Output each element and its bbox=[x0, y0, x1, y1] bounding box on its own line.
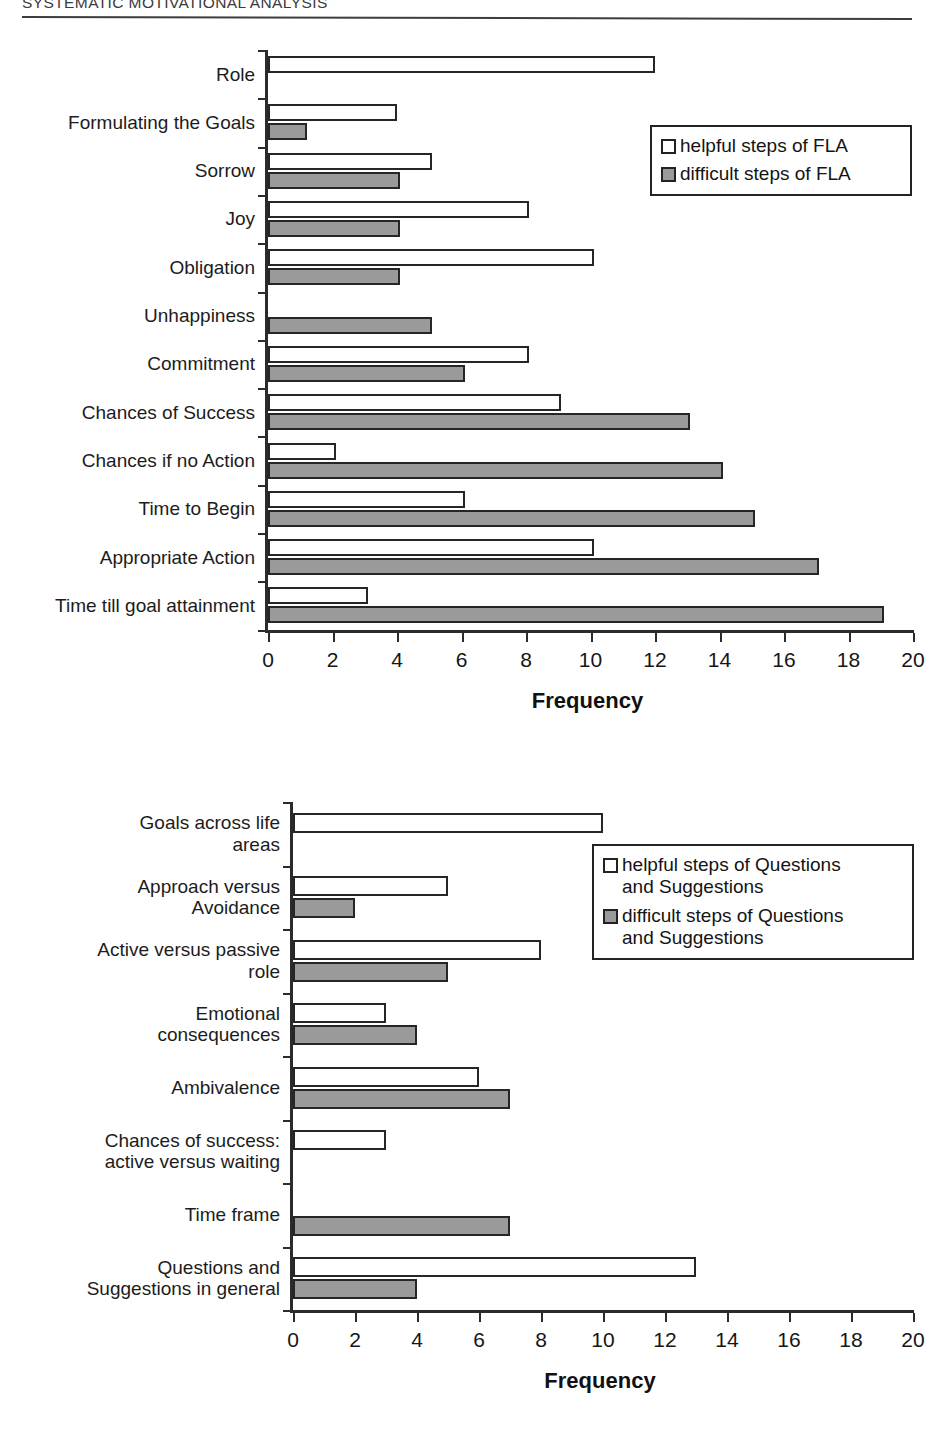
x-axis-tick-label: 18 bbox=[821, 1328, 881, 1352]
x-axis-tick bbox=[355, 1313, 357, 1322]
x-axis-tick-label: 10 bbox=[561, 648, 621, 672]
x-axis-tick-label: 18 bbox=[819, 648, 879, 672]
bar-helpful bbox=[268, 394, 561, 411]
y-axis-tick bbox=[258, 50, 267, 52]
legend-label: difficult steps of FLA bbox=[680, 163, 851, 185]
bar-helpful bbox=[293, 876, 448, 896]
bar-difficult bbox=[268, 558, 819, 575]
category-label: Time frame bbox=[0, 1204, 280, 1225]
bar-helpful bbox=[293, 1130, 386, 1150]
bar-helpful bbox=[268, 491, 465, 508]
bar-difficult bbox=[293, 1089, 510, 1109]
y-axis-tick bbox=[258, 533, 267, 535]
y-axis-tick bbox=[258, 98, 267, 100]
x-axis-tick-label: 2 bbox=[325, 1328, 385, 1352]
category-label: Approach versus Avoidance bbox=[0, 876, 280, 919]
y-axis-tick bbox=[258, 436, 267, 438]
y-axis-tick bbox=[258, 292, 267, 294]
bar-helpful bbox=[268, 587, 368, 604]
category-label: Commitment bbox=[0, 353, 255, 374]
category-label: Emotional consequences bbox=[0, 1003, 280, 1046]
category-label: Goals across life areas bbox=[0, 812, 280, 855]
bar-difficult bbox=[268, 606, 884, 623]
category-label: Ambivalence bbox=[0, 1077, 280, 1098]
bar-helpful bbox=[268, 153, 432, 170]
legend-label: helpful steps of FLA bbox=[680, 135, 848, 157]
x-axis-tick bbox=[417, 1313, 419, 1322]
x-axis-tick bbox=[727, 1313, 729, 1322]
bar-difficult bbox=[268, 317, 432, 334]
x-axis-tick bbox=[913, 1313, 915, 1322]
x-axis-tick bbox=[603, 1313, 605, 1322]
category-label: Joy bbox=[0, 208, 255, 229]
x-axis-tick-label: 14 bbox=[690, 648, 750, 672]
x-axis-tick bbox=[784, 633, 786, 642]
x-axis-tick-label: 6 bbox=[432, 648, 492, 672]
x-axis-tick bbox=[397, 633, 399, 642]
legend-swatch-helpful-icon bbox=[603, 858, 618, 873]
y-axis-tick bbox=[283, 993, 292, 995]
category-label: Formulating the Goals bbox=[0, 112, 255, 133]
running-header-title: SYSTEMATIC MOTIVATIONAL ANALYSIS bbox=[22, 0, 328, 12]
x-axis-tick bbox=[851, 1313, 853, 1322]
x-axis-tick-label: 16 bbox=[759, 1328, 819, 1352]
bar-helpful bbox=[293, 813, 603, 833]
category-label: Time till goal attainment bbox=[0, 595, 255, 616]
legend-item: difficult steps of Questions and Suggest… bbox=[603, 905, 902, 950]
category-label: Chances of Success bbox=[0, 402, 255, 423]
x-axis-tick-label: 10 bbox=[573, 1328, 633, 1352]
page-header: SYSTEMATIC MOTIVATIONAL ANALYSIS bbox=[0, 0, 925, 26]
legend-item: helpful steps of Questions and Suggestio… bbox=[603, 854, 902, 899]
category-label: Chances if no Action bbox=[0, 450, 255, 471]
y-axis-tick bbox=[258, 243, 267, 245]
x-axis-tick bbox=[293, 1313, 295, 1322]
x-axis-tick bbox=[479, 1313, 481, 1322]
bar-difficult bbox=[268, 365, 465, 382]
bar-helpful bbox=[293, 1257, 696, 1277]
x-axis-tick bbox=[591, 633, 593, 642]
y-axis-tick bbox=[258, 147, 267, 149]
category-label: Sorrow bbox=[0, 160, 255, 181]
x-axis-tick bbox=[655, 633, 657, 642]
y-axis-tick bbox=[283, 929, 292, 931]
x-axis-tick-label: 4 bbox=[387, 1328, 447, 1352]
chart-legend: helpful steps of FLAdifficult steps of F… bbox=[650, 125, 912, 196]
x-axis-tick-label: 6 bbox=[449, 1328, 509, 1352]
category-label: Appropriate Action bbox=[0, 547, 255, 568]
y-axis-tick bbox=[283, 1120, 292, 1122]
x-axis-tick bbox=[789, 1313, 791, 1322]
x-axis-tick-label: 0 bbox=[263, 1328, 323, 1352]
x-axis-tick-label: 16 bbox=[754, 648, 814, 672]
bar-difficult bbox=[268, 413, 690, 430]
x-axis-tick bbox=[849, 633, 851, 642]
category-label: Time to Begin bbox=[0, 498, 255, 519]
figure-fla-chart: RoleFormulating the GoalsSorrowJoyObliga… bbox=[0, 40, 925, 740]
y-axis-tick bbox=[283, 802, 292, 804]
y-axis-tick bbox=[283, 1247, 292, 1249]
y-axis-tick bbox=[258, 388, 267, 390]
category-label: Chances of success: active versus waitin… bbox=[0, 1130, 280, 1173]
x-axis-tick bbox=[462, 633, 464, 642]
bar-difficult bbox=[268, 220, 400, 237]
category-label: Active versus passive role bbox=[0, 939, 280, 982]
legend-swatch-helpful-icon bbox=[661, 139, 676, 154]
category-label: Role bbox=[0, 64, 255, 85]
x-axis-line bbox=[265, 630, 914, 633]
y-axis-tick bbox=[258, 340, 267, 342]
bar-helpful bbox=[293, 1067, 479, 1087]
x-axis-tick bbox=[541, 1313, 543, 1322]
x-axis-tick bbox=[526, 633, 528, 642]
y-axis-tick bbox=[258, 195, 267, 197]
x-axis-tick-label: 14 bbox=[697, 1328, 757, 1352]
y-axis-tick bbox=[283, 866, 292, 868]
y-axis-tick bbox=[283, 1183, 292, 1185]
bar-helpful bbox=[268, 539, 594, 556]
bar-difficult bbox=[293, 1216, 510, 1236]
legend-item: difficult steps of FLA bbox=[661, 163, 900, 185]
x-axis-tick-label: 0 bbox=[238, 648, 298, 672]
x-axis-tick bbox=[913, 633, 915, 642]
x-axis-title: Frequency bbox=[265, 688, 910, 714]
x-axis-tick bbox=[268, 633, 270, 642]
x-axis-tick-label: 20 bbox=[883, 1328, 925, 1352]
category-label: Obligation bbox=[0, 257, 255, 278]
